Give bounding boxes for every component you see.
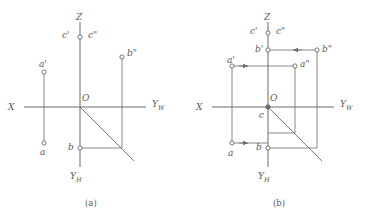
diagram-a-point-a-prime xyxy=(42,70,46,74)
diagram-b-arrow-aprime-to-adoubleprime xyxy=(243,64,248,68)
diagram-b-point-c-double-prime-label: c" xyxy=(276,27,285,36)
diagram-b-point-a xyxy=(230,141,234,145)
diagram-a-point-b-double-prime xyxy=(120,55,124,59)
diagram-b-point-c xyxy=(266,105,270,109)
diagram-b-z-axis-label: Z xyxy=(264,13,270,22)
diagram-b-point-b-prime-label: b' xyxy=(255,45,263,54)
diagram-b-point-b-double-prime xyxy=(315,48,319,52)
diagram-b-x-axis-label: X xyxy=(196,103,202,112)
diagram-a-point-c-double-prime-label: c" xyxy=(88,31,97,40)
diagram-a-yw-axis-label: YW xyxy=(152,100,165,111)
diagram-a-point-a-label: a xyxy=(40,148,45,157)
diagram-a-origin-label: O xyxy=(82,94,89,103)
diagram-a-point-b-label: b xyxy=(68,143,74,152)
diagram-b-yw-axis-label: YW xyxy=(340,100,353,111)
diagram-b-origin-label: O xyxy=(270,94,277,103)
diagram-b-point-a-double-prime-label: a" xyxy=(300,60,310,69)
diagram-b-point-b-label: b xyxy=(256,143,262,152)
caption-b: (b) xyxy=(273,199,285,208)
diagram-a-x-axis-label: X xyxy=(8,103,14,112)
diagram-b-arrow-a-right xyxy=(243,141,248,145)
diagram-b-point-b-double-prime-label: b" xyxy=(322,45,332,54)
diagram-b-point-a-prime-label: a' xyxy=(227,56,235,65)
diagram-a-point-c-prime-label: c' xyxy=(62,31,70,40)
diagram-b-point-b xyxy=(266,146,270,150)
diagram-a-point-c-prime xyxy=(78,35,82,39)
diagram-a-yh-axis-label: YH xyxy=(70,172,82,183)
projection-diagram-svg xyxy=(0,0,371,222)
diagram-b-point-c-label: c xyxy=(259,111,264,120)
diagram-b-arrow-bdoubleprime-to-bprime xyxy=(293,48,298,52)
diagram-b-point-a-label: a xyxy=(228,149,233,158)
diagram-a-point-b-double-prime-label: b" xyxy=(127,49,137,58)
diagram-a-point-a xyxy=(42,141,46,145)
diagram-b-point-c-prime-label: c' xyxy=(250,27,258,36)
diagram-a-point-b xyxy=(78,146,82,150)
diagram-b-point-c-prime xyxy=(266,31,270,35)
figure-canvas: ZXYWYHa'ab"bc'c"OZXYWYHc'c"cb'b"a'a"abO(… xyxy=(0,0,371,222)
caption-a: (a) xyxy=(85,199,97,208)
diagram-b-yh-axis-label: YH xyxy=(258,172,270,183)
diagram-a-z-axis-label: Z xyxy=(76,13,82,22)
diagram-b-point-b-prime xyxy=(266,48,270,52)
diagram-a-bisector-45 xyxy=(80,107,134,161)
diagram-a-point-a-prime-label: a' xyxy=(39,60,47,69)
diagram-b-point-a-double-prime xyxy=(293,64,297,68)
